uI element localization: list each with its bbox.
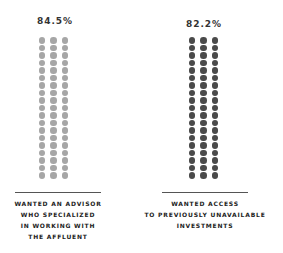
dot-icon bbox=[189, 127, 196, 134]
dot-icon bbox=[189, 82, 196, 89]
dot-icon bbox=[200, 157, 207, 164]
dot-icon bbox=[39, 52, 46, 59]
dot-icon bbox=[189, 60, 196, 67]
dot-icon bbox=[200, 67, 207, 74]
dot-icon bbox=[189, 90, 196, 97]
dot-icon bbox=[39, 135, 46, 142]
dot-icon bbox=[39, 45, 46, 52]
dot-icon bbox=[189, 142, 196, 149]
dot-icon bbox=[212, 157, 219, 164]
dot-icon bbox=[189, 150, 196, 157]
dot-icon bbox=[62, 150, 69, 157]
dot-icon bbox=[62, 60, 69, 67]
dot-icon bbox=[189, 157, 196, 164]
dot-icon bbox=[189, 75, 196, 82]
dot-icon bbox=[62, 67, 69, 74]
dot-icon bbox=[212, 105, 219, 112]
dot-icon bbox=[39, 60, 46, 67]
divider-left bbox=[15, 192, 101, 193]
dot-icon bbox=[62, 142, 69, 149]
dot-icon bbox=[50, 120, 57, 127]
label-line: WHO SPECIALIZED bbox=[5, 209, 111, 220]
dot-icon bbox=[62, 75, 69, 82]
dot-icon bbox=[212, 127, 219, 134]
dot-icon bbox=[189, 135, 196, 142]
dot-icon bbox=[62, 112, 69, 119]
dot-icon bbox=[189, 97, 196, 104]
dot-icon bbox=[39, 97, 46, 104]
dot-icon bbox=[62, 120, 69, 127]
dot-icon bbox=[200, 150, 207, 157]
dot-icon bbox=[50, 105, 57, 112]
dot-icon bbox=[200, 112, 207, 119]
dot-icon bbox=[50, 52, 57, 59]
dot-icon bbox=[39, 112, 46, 119]
dot-icon bbox=[189, 165, 196, 172]
category-label-right: WANTED ACCESS TO PREVIOUSLY UNAVAILABLE … bbox=[140, 198, 270, 231]
dot-icon bbox=[212, 37, 219, 44]
dot-icon bbox=[189, 105, 196, 112]
dot-icon bbox=[212, 45, 219, 52]
dot-icon bbox=[62, 105, 69, 112]
dot-icon bbox=[200, 127, 207, 134]
dot-icon bbox=[189, 172, 196, 179]
dot-icon bbox=[200, 142, 207, 149]
dot-icon bbox=[212, 165, 219, 172]
dot-icon bbox=[50, 172, 57, 179]
dot-icon bbox=[62, 52, 69, 59]
dot-icon bbox=[62, 157, 69, 164]
dot-icon bbox=[200, 52, 207, 59]
dot-icon bbox=[200, 37, 207, 44]
dot-icon bbox=[39, 75, 46, 82]
dot-icon bbox=[50, 82, 57, 89]
dot-icon bbox=[62, 127, 69, 134]
dot-icon bbox=[200, 90, 207, 97]
dot-icon bbox=[200, 135, 207, 142]
label-line: IN WORKING WITH bbox=[5, 220, 111, 231]
dot-icon bbox=[212, 67, 219, 74]
dot-icon bbox=[50, 75, 57, 82]
dot-icon bbox=[39, 165, 46, 172]
dot-icon bbox=[39, 90, 46, 97]
dot-icon bbox=[39, 82, 46, 89]
dot-icon bbox=[212, 142, 219, 149]
dot-icon bbox=[50, 135, 57, 142]
dot-icon bbox=[212, 90, 219, 97]
dot-icon bbox=[200, 60, 207, 67]
dot-icon bbox=[50, 165, 57, 172]
dot-icon bbox=[50, 142, 57, 149]
dot-icon bbox=[200, 82, 207, 89]
value-label-right: 82.2% bbox=[179, 19, 229, 29]
dot-icon bbox=[189, 45, 196, 52]
dot-icon bbox=[200, 97, 207, 104]
dot-icon bbox=[50, 90, 57, 97]
dot-icon bbox=[189, 67, 196, 74]
dot-icon bbox=[62, 172, 69, 179]
dot-icon bbox=[212, 97, 219, 104]
dot-icon bbox=[62, 165, 69, 172]
dot-icon bbox=[212, 52, 219, 59]
dot-icon bbox=[189, 120, 196, 127]
dot-icon bbox=[212, 172, 219, 179]
dot-grid-right bbox=[189, 37, 219, 179]
dot-icon bbox=[200, 45, 207, 52]
dot-icon bbox=[189, 52, 196, 59]
label-line: TO PREVIOUSLY UNAVAILABLE bbox=[140, 209, 270, 220]
dot-icon bbox=[62, 45, 69, 52]
dot-icon bbox=[212, 75, 219, 82]
dot-icon bbox=[39, 172, 46, 179]
dot-icon bbox=[200, 105, 207, 112]
dot-icon bbox=[212, 82, 219, 89]
label-line: THE AFFLUENT bbox=[5, 231, 111, 242]
dot-icon bbox=[62, 82, 69, 89]
dot-icon bbox=[39, 37, 46, 44]
dot-icon bbox=[200, 120, 207, 127]
dot-icon bbox=[200, 165, 207, 172]
dot-icon bbox=[50, 150, 57, 157]
dot-icon bbox=[50, 157, 57, 164]
value-label-left: 84.5% bbox=[30, 16, 80, 26]
dot-icon bbox=[39, 67, 46, 74]
label-line: WANTED AN ADVISOR bbox=[5, 198, 111, 209]
dot-icon bbox=[50, 45, 57, 52]
dot-icon bbox=[62, 135, 69, 142]
